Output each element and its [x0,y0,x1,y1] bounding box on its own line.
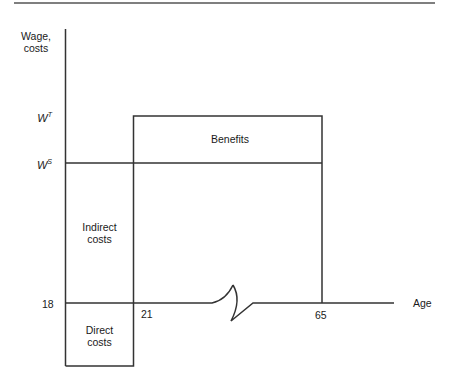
y-axis-label-line1: Wage, [14,30,58,42]
x-tick-65: 65 [315,309,327,321]
y-tick-wt: WT [20,109,52,124]
x-axis-label: Age [413,297,432,309]
x-axis-left [66,285,234,303]
y-axis-label: Wage, costs [14,30,58,54]
x-tick-18: 18 [42,298,54,310]
y-tick-wt-sup: T [48,111,52,118]
benefits-label: Benefits [180,133,280,145]
direct-costs-label: Direct costs [66,324,133,348]
indirect-costs-line2: costs [66,233,133,245]
x-tick-21: 21 [141,308,153,320]
y-tick-ws-sup: S [47,158,52,165]
x-axis-break-icon [231,285,394,321]
indirect-costs-line1: Indirect [66,221,133,233]
y-axis-label-line2: costs [14,42,58,54]
y-tick-ws-base: W [37,159,47,171]
direct-costs-line2: costs [66,336,133,348]
indirect-costs-label: Indirect costs [66,221,133,245]
y-tick-wt-base: W [37,112,47,124]
y-tick-ws: WS [20,156,52,171]
direct-costs-line1: Direct [66,324,133,336]
